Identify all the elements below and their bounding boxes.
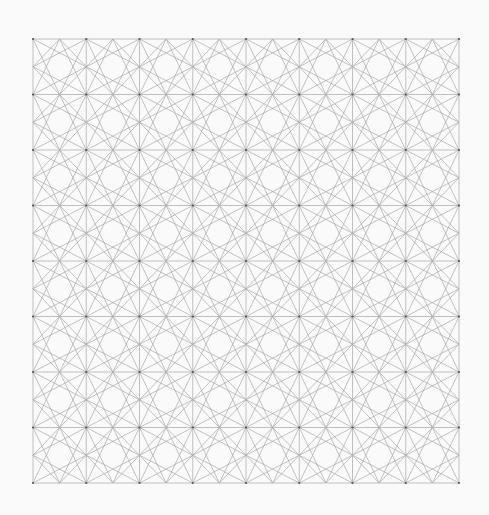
vertex-dot <box>85 426 87 428</box>
vertex-dot <box>405 260 407 262</box>
vertex-dot <box>458 38 460 40</box>
vertex-dot <box>405 93 407 95</box>
vertex-dot <box>138 315 140 317</box>
vertex-dot <box>458 371 460 373</box>
vertex-dot <box>192 204 194 206</box>
vertex-dot <box>138 482 140 484</box>
vertex-dot <box>298 482 300 484</box>
vertex-dot <box>405 426 407 428</box>
vertex-dot <box>192 482 194 484</box>
vertex-dot <box>32 371 34 373</box>
vertex-dot <box>192 149 194 151</box>
vertex-dot <box>32 426 34 428</box>
vertex-dot <box>298 315 300 317</box>
vertex-dot <box>85 371 87 373</box>
vertex-dot <box>458 204 460 206</box>
vertex-dot <box>458 426 460 428</box>
vertex-dot <box>32 38 34 40</box>
vertex-dot <box>85 260 87 262</box>
vertex-dot <box>458 149 460 151</box>
vertex-dot <box>351 149 353 151</box>
vertex-dot <box>458 93 460 95</box>
vertex-dot <box>138 204 140 206</box>
vertex-dot <box>298 149 300 151</box>
vertex-dot <box>138 371 140 373</box>
vertex-dot <box>32 482 34 484</box>
vertex-dot <box>192 93 194 95</box>
vertex-dot <box>405 482 407 484</box>
vertex-dot <box>32 149 34 151</box>
vertex-dot <box>32 93 34 95</box>
vertex-dot <box>458 482 460 484</box>
vertex-dot <box>351 371 353 373</box>
vertex-dot <box>32 315 34 317</box>
vertex-dot <box>85 204 87 206</box>
vertex-dot <box>85 315 87 317</box>
vertex-dot <box>138 426 140 428</box>
vertex-dot <box>298 371 300 373</box>
vertex-dot <box>192 426 194 428</box>
vertex-dot <box>351 426 353 428</box>
vertex-dot <box>192 260 194 262</box>
vertex-dot <box>351 93 353 95</box>
vertex-dot <box>32 260 34 262</box>
vertex-dot <box>351 482 353 484</box>
tiling-diagram <box>0 0 489 515</box>
vertex-dot <box>298 204 300 206</box>
vertex-dot <box>351 260 353 262</box>
vertex-dot <box>351 38 353 40</box>
vertex-dot <box>298 38 300 40</box>
vertex-dot <box>138 260 140 262</box>
vertex-dot <box>192 315 194 317</box>
vertex-dot <box>351 315 353 317</box>
vertex-dot <box>298 93 300 95</box>
vertex-dot <box>245 204 247 206</box>
vertex-dot <box>405 204 407 206</box>
vertex-dot <box>85 482 87 484</box>
vertex-dot <box>192 38 194 40</box>
vertex-dot <box>458 315 460 317</box>
vertex-dot <box>192 371 194 373</box>
vertex-dot <box>458 260 460 262</box>
vertex-dot <box>298 260 300 262</box>
vertex-dot <box>351 204 353 206</box>
vertex-dot <box>138 38 140 40</box>
vertex-dot <box>245 149 247 151</box>
vertex-dot <box>245 93 247 95</box>
vertex-dot <box>85 93 87 95</box>
vertex-dot <box>245 482 247 484</box>
vertex-dot <box>405 315 407 317</box>
vertex-dot <box>405 38 407 40</box>
vertex-dot <box>245 260 247 262</box>
vertex-dot <box>245 426 247 428</box>
vertex-dot <box>245 38 247 40</box>
vertex-dot <box>138 149 140 151</box>
vertex-dot <box>405 371 407 373</box>
vertex-dot <box>298 426 300 428</box>
vertex-dot <box>138 93 140 95</box>
vertex-dot <box>245 315 247 317</box>
vertex-dot <box>85 149 87 151</box>
vertex-dot <box>405 149 407 151</box>
vertex-dot <box>85 38 87 40</box>
vertex-dot <box>32 204 34 206</box>
vertex-dot <box>245 371 247 373</box>
